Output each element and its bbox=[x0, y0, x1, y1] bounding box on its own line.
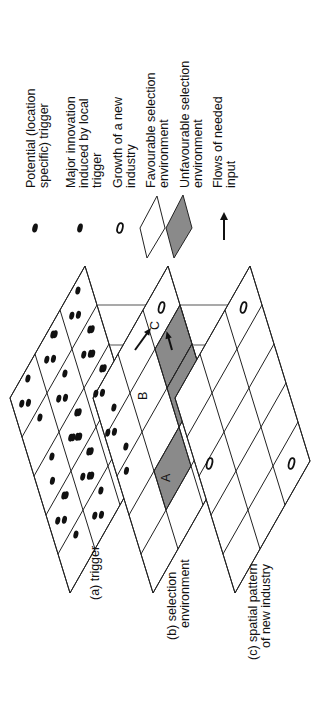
layer-label-b: (b) selection environment bbox=[165, 559, 192, 640]
legend-innovation-dot-icon bbox=[76, 223, 83, 233]
layer-label-a: (a) trigger bbox=[88, 546, 102, 600]
legend-label-favourable: Favourable selection environment bbox=[144, 69, 171, 188]
legend-label-flows: Flows of needed input bbox=[211, 93, 238, 188]
cell-label-a: A bbox=[159, 473, 173, 482]
cell-label-c: C bbox=[148, 321, 162, 330]
diagram-figure: Potential (location specific) trigger Ma… bbox=[0, 0, 330, 701]
legend-label-growth: Growth of a new industry bbox=[111, 94, 138, 189]
legend-growth-ring-icon bbox=[116, 222, 124, 233]
legend-favourable-rhombus-icon bbox=[140, 196, 165, 258]
legend-arrow-icon bbox=[220, 212, 228, 240]
legend: Potential (location specific) trigger Ma… bbox=[24, 57, 238, 258]
layer-label-c: (c) spatial pattern of new industry bbox=[246, 560, 273, 660]
cell-label-b: B bbox=[136, 392, 150, 400]
legend-unfavourable-rhombus-icon bbox=[166, 195, 192, 258]
layer-c-plane bbox=[175, 266, 310, 593]
legend-label-innovation: Major innovation induced by local trigge… bbox=[64, 93, 104, 188]
legend-label-trigger: Potential (location specific) trigger bbox=[24, 85, 51, 188]
legend-label-unfavourable: Unfavourable selection environment bbox=[178, 57, 205, 188]
legend-trigger-dot-icon bbox=[31, 223, 38, 233]
